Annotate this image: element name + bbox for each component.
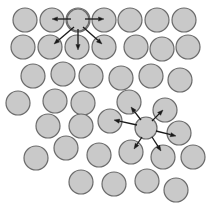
particle-circle [13, 8, 37, 32]
particle-circle [167, 121, 191, 145]
particle-circle [6, 91, 30, 115]
particle-circle [40, 8, 64, 32]
particle-circle [79, 64, 103, 88]
particle-circle [117, 90, 141, 114]
particle-circle [24, 146, 48, 170]
particle-circle [38, 35, 62, 59]
hub-particle-circle [67, 9, 89, 31]
particle-circle [124, 35, 148, 59]
particle-circle [21, 64, 45, 88]
particle-circle [151, 145, 175, 169]
particle-circle [118, 8, 142, 32]
particle-circle [168, 68, 192, 92]
particle-circle [87, 143, 111, 167]
particle-circle [135, 169, 159, 193]
particle-circle [119, 140, 143, 164]
particle-circle [181, 145, 205, 169]
particle-circle [36, 114, 60, 138]
hub-particle-circle [135, 117, 157, 139]
particle-diagram [0, 0, 216, 212]
particle-circle [51, 62, 75, 86]
particle-circle [172, 8, 196, 32]
particle-circle [150, 37, 174, 61]
particle-circle [109, 66, 133, 90]
particle-circle [139, 64, 163, 88]
particle-circle [145, 8, 169, 32]
particle-circle [164, 178, 188, 202]
particle-circle [54, 136, 78, 160]
particle-circle [153, 98, 177, 122]
particle-circle [11, 35, 35, 59]
particle-circle [92, 8, 116, 32]
figure-root [0, 0, 216, 212]
particle-circle [102, 172, 126, 196]
particle-circle [71, 91, 95, 115]
particle-circle [69, 170, 93, 194]
particle-circle [69, 114, 93, 138]
particle-circle [43, 89, 67, 113]
particle-circle [176, 35, 200, 59]
